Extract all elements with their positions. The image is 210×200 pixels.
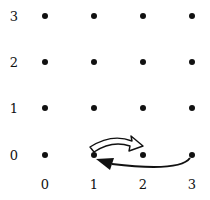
lattice-point xyxy=(42,152,48,158)
solid-arrow-icon xyxy=(112,158,190,167)
y-label-0: 0 xyxy=(10,148,18,163)
x-label-3: 3 xyxy=(188,177,196,192)
lattice-point xyxy=(140,13,146,19)
lattice-point xyxy=(91,13,97,19)
x-label-1: 1 xyxy=(90,177,98,192)
lattice-point xyxy=(42,59,48,65)
x-label-2: 2 xyxy=(139,177,147,192)
arrowhead-icon xyxy=(96,158,114,170)
lattice-point xyxy=(140,152,146,158)
lattice-point xyxy=(91,152,97,158)
lattice-point xyxy=(42,13,48,19)
lattice-point xyxy=(91,59,97,65)
lattice-point xyxy=(140,59,146,65)
lattice-point xyxy=(189,105,195,111)
lattice-point xyxy=(189,152,195,158)
y-label-3: 3 xyxy=(10,9,18,24)
x-label-0: 0 xyxy=(41,177,49,192)
lattice-point xyxy=(140,105,146,111)
lattice-point xyxy=(189,59,195,65)
lattice-point xyxy=(189,13,195,19)
lattice-point xyxy=(91,105,97,111)
y-label-1: 1 xyxy=(10,101,18,116)
lattice-diagram xyxy=(0,0,210,200)
lattice-point xyxy=(42,105,48,111)
hollow-arrow-icon xyxy=(90,136,143,152)
y-label-2: 2 xyxy=(10,55,18,70)
